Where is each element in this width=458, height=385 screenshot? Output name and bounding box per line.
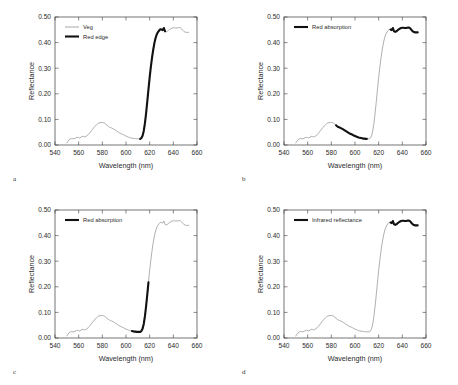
- y-tick-label: 0.10: [38, 309, 51, 316]
- x-tick-label: 540: [278, 149, 289, 156]
- panel-letter-d: d: [242, 368, 246, 376]
- x-tick-label: 600: [120, 149, 131, 156]
- panel-b: 5405605806006206406600.000.100.200.300.4…: [229, 0, 458, 192]
- highlight-segment: [391, 28, 418, 33]
- y-tick-label: 0.50: [38, 13, 51, 20]
- x-tick-label: 660: [420, 149, 431, 156]
- x-tick-label: 580: [97, 342, 108, 349]
- x-tick-label: 660: [420, 342, 431, 349]
- x-tick-label: 560: [73, 342, 84, 349]
- highlight-segment: [140, 28, 165, 139]
- x-tick-label: 600: [349, 149, 360, 156]
- x-tick-label: 580: [326, 342, 337, 349]
- y-tick-label: 0.00: [38, 141, 51, 148]
- x-tick-label: 540: [49, 342, 60, 349]
- y-tick-label: 0.30: [38, 258, 51, 265]
- plot-d: 5405605806006206406600.000.100.200.300.4…: [229, 193, 458, 385]
- x-tick-label: 640: [168, 149, 179, 156]
- x-tick-label: 600: [349, 342, 360, 349]
- legend-label: Veg: [83, 24, 93, 30]
- x-tick-label: 620: [373, 149, 384, 156]
- legend-label: Infrared reflectance: [312, 217, 362, 223]
- y-tick-label: 0.10: [38, 116, 51, 123]
- y-tick-label: 0.30: [38, 65, 51, 72]
- highlight-segment: [336, 125, 367, 139]
- y-tick-label: 0.50: [267, 13, 280, 20]
- spectrum-curve: [67, 28, 189, 143]
- y-tick-label: 0.20: [38, 90, 51, 97]
- x-tick-label: 600: [120, 342, 131, 349]
- y-tick-label: 0.00: [267, 334, 280, 341]
- plot-b: 5405605806006206406600.000.100.200.300.4…: [229, 0, 458, 192]
- panel-letter-b: b: [242, 175, 246, 183]
- x-tick-label: 640: [397, 342, 408, 349]
- x-tick-label: 540: [278, 342, 289, 349]
- x-axis-title: Wavelength (nm): [328, 354, 382, 363]
- x-tick-label: 620: [373, 342, 384, 349]
- x-tick-label: 560: [73, 149, 84, 156]
- x-tick-label: 580: [326, 149, 337, 156]
- x-tick-label: 660: [191, 342, 202, 349]
- panel-a: 5405605806006206406600.000.100.200.300.4…: [0, 0, 229, 192]
- y-tick-label: 0.50: [38, 206, 51, 213]
- plot-a: 5405605806006206406600.000.100.200.300.4…: [0, 0, 229, 192]
- y-tick-label: 0.30: [267, 258, 280, 265]
- panel-c: 5405605806006206406600.000.100.200.300.4…: [0, 193, 229, 385]
- y-tick-label: 0.20: [267, 283, 280, 290]
- highlight-segment: [132, 282, 149, 332]
- four-panel-spectral-figure: 5405605806006206406600.000.100.200.300.4…: [0, 0, 458, 385]
- y-tick-label: 0.40: [38, 39, 51, 46]
- x-tick-label: 620: [144, 149, 155, 156]
- x-tick-label: 640: [397, 149, 408, 156]
- x-axis-title: Wavelength (nm): [99, 161, 153, 170]
- spectrum-curve: [67, 221, 189, 336]
- y-tick-label: 0.00: [267, 141, 280, 148]
- y-axis-title: Reflectance: [27, 62, 36, 100]
- y-tick-label: 0.00: [38, 334, 51, 341]
- plot-c: 5405605806006206406600.000.100.200.300.4…: [0, 193, 229, 385]
- y-tick-label: 0.20: [267, 90, 280, 97]
- y-tick-label: 0.40: [38, 232, 51, 239]
- y-axis-title: Reflectance: [256, 255, 265, 293]
- x-tick-label: 580: [97, 149, 108, 156]
- x-tick-label: 640: [168, 342, 179, 349]
- x-tick-label: 620: [144, 342, 155, 349]
- spectrum-curve: [296, 221, 418, 336]
- x-axis-title: Wavelength (nm): [99, 354, 153, 363]
- y-tick-label: 0.40: [267, 39, 280, 46]
- x-tick-label: 540: [49, 149, 60, 156]
- y-tick-label: 0.10: [267, 309, 280, 316]
- x-axis-title: Wavelength (nm): [328, 161, 382, 170]
- y-axis-title: Reflectance: [256, 62, 265, 100]
- x-tick-label: 560: [302, 342, 313, 349]
- y-tick-label: 0.10: [267, 116, 280, 123]
- plot-frame: [55, 210, 197, 338]
- y-tick-label: 0.40: [267, 232, 280, 239]
- y-tick-label: 0.20: [38, 283, 51, 290]
- plot-frame: [284, 17, 426, 145]
- highlight-segment: [391, 221, 418, 226]
- panel-letter-a: a: [13, 175, 16, 183]
- x-tick-label: 660: [191, 149, 202, 156]
- panel-letter-c: c: [13, 368, 16, 376]
- legend-label: Red absorption: [312, 24, 351, 30]
- y-axis-title: Reflectance: [27, 255, 36, 293]
- plot-frame: [284, 210, 426, 338]
- legend-label: Red absorption: [83, 217, 122, 223]
- spectrum-curve: [296, 28, 418, 143]
- panel-d: 5405605806006206406600.000.100.200.300.4…: [229, 193, 458, 385]
- legend-label: Red edge: [83, 34, 108, 40]
- x-tick-label: 560: [302, 149, 313, 156]
- y-tick-label: 0.50: [267, 206, 280, 213]
- y-tick-label: 0.30: [267, 65, 280, 72]
